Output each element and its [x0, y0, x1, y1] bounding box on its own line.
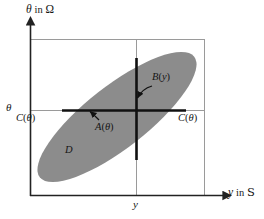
- c-right-close: ): [194, 112, 198, 123]
- a-close: ): [110, 121, 114, 132]
- y-axis-caption-space: Ω: [46, 3, 55, 15]
- label-a-theta: A(θ): [95, 122, 114, 133]
- diagram-canvas: [0, 0, 264, 219]
- label-c-theta-left: C(θ): [16, 113, 35, 124]
- y-axis-tick-label: θ: [6, 102, 11, 113]
- c-left-close: ): [32, 112, 36, 123]
- confidence-region-diagram: θ in Ω y in S θ y C(θ) C(θ) A(θ) B(y) D: [0, 0, 264, 219]
- x-axis-caption-space: S: [247, 185, 255, 199]
- label-b-y: B(y): [152, 72, 170, 83]
- y-axis-caption-word: in: [35, 4, 43, 15]
- b-close: ): [167, 71, 171, 82]
- c-left-fn: C: [16, 112, 23, 123]
- y-axis-caption: θ in Ω: [26, 4, 54, 16]
- label-c-theta-right: C(θ): [178, 113, 197, 124]
- label-region-d: D: [65, 145, 73, 156]
- x-axis-caption-word: in: [236, 187, 244, 198]
- x-axis-caption: y in S: [228, 187, 255, 199]
- c-right-fn: C: [178, 112, 185, 123]
- x-axis-tick-label: y: [133, 199, 138, 210]
